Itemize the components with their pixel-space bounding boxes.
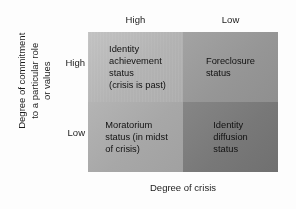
quadrant-foreclosure: Foreclosure status: [183, 32, 278, 102]
x-axis-title: Degree of crisis: [88, 182, 278, 193]
matrix-grid: Identity achievement status (crisis is p…: [88, 32, 278, 172]
quadrant-label: Moratorium status (in midst of crisis): [98, 119, 175, 156]
column-header-high: High: [88, 14, 183, 25]
column-header-low: Low: [183, 14, 278, 25]
quadrant-identity-diffusion: Identity diffusion status: [183, 102, 278, 172]
row-header-high: High: [55, 57, 85, 68]
quadrant-moratorium: Moratorium status (in midst of crisis): [88, 102, 183, 172]
quadrant-label: Identity achievement status (crisis is p…: [102, 43, 173, 92]
row-header-low: Low: [55, 127, 85, 138]
quadrant-identity-achievement: Identity achievement status (crisis is p…: [88, 32, 183, 102]
quadrant-label: Foreclosure status: [199, 55, 262, 79]
y-axis-title: Degree of commitment to a particular rol…: [16, 11, 54, 151]
identity-status-matrix-figure: High Low High Low Degree of commitment t…: [0, 0, 296, 209]
quadrant-label: Identity diffusion status: [206, 119, 254, 156]
